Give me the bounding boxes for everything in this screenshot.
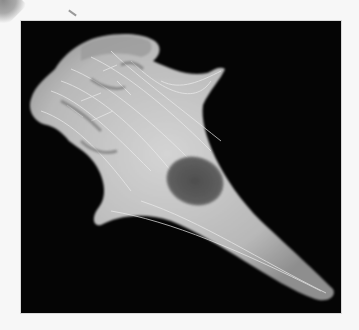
stray-mark	[68, 10, 77, 17]
cell-micrograph	[21, 21, 341, 313]
